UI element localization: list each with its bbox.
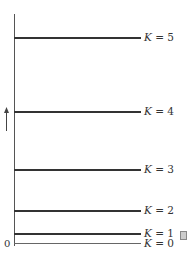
level-line-k3 <box>14 169 141 171</box>
up-arrow-icon <box>4 107 9 131</box>
origin-label: 0 <box>4 238 10 249</box>
level-label-k4: K = 4 <box>144 106 174 116</box>
level-label-k3: K = 3 <box>144 164 174 174</box>
level-label-k2: K = 2 <box>144 205 174 215</box>
level-line-k4 <box>14 111 141 113</box>
level-line-k2 <box>14 210 141 212</box>
level-line-k5 <box>14 37 141 39</box>
level-line-k1 <box>14 233 141 235</box>
level-line-k0 <box>14 243 141 244</box>
level-label-k5: K = 5 <box>144 32 174 42</box>
level-label-k0: K = 0 <box>144 238 174 248</box>
small-box-icon <box>180 231 187 240</box>
